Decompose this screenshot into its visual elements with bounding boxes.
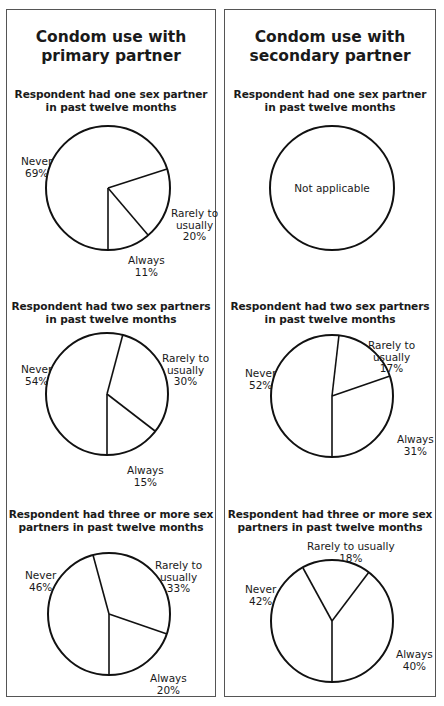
- column-title: Condom use with primary partner: [7, 28, 215, 66]
- label-line: Rarely to: [155, 560, 202, 572]
- label-rarely: Rarely to usually 17%: [368, 340, 415, 375]
- secondary-partner-panel: Condom use with secondary partner Respon…: [224, 9, 436, 697]
- subtitle-line: in past twelve months: [225, 313, 435, 326]
- label-always: Always 20%: [150, 673, 187, 696]
- label-line: Never: [245, 584, 276, 596]
- label-always: Always 11%: [128, 255, 165, 278]
- title-line: primary partner: [7, 47, 215, 66]
- label-rarely: Rarely to usually 33%: [155, 560, 202, 595]
- label-line: Always: [150, 673, 187, 685]
- label-line: 69%: [21, 168, 52, 180]
- label-rarely: Rarely to usually 30%: [162, 353, 209, 388]
- label-line: Always: [396, 649, 433, 661]
- subtitle-line: partners in past twelve months: [225, 521, 435, 534]
- subtitle-line: Respondent had one sex partner: [7, 88, 215, 101]
- subtitle-line: partners in past twelve months: [7, 521, 215, 534]
- label-never: Never 42%: [245, 584, 276, 607]
- label-never: Never 69%: [21, 156, 52, 179]
- subtitle-line: Respondent had three or more sex: [225, 508, 435, 521]
- label-never: Never 54%: [21, 364, 52, 387]
- label-line: Always: [127, 465, 164, 477]
- label-line: 40%: [396, 661, 433, 673]
- label-line: 54%: [21, 376, 52, 388]
- label-line: 42%: [245, 596, 276, 608]
- label-line: Rarely to: [171, 208, 218, 220]
- column-title: Condom use with secondary partner: [225, 28, 435, 66]
- label-line: 20%: [150, 685, 187, 697]
- label-line: Never: [21, 156, 52, 168]
- title-line: Condom use with: [225, 28, 435, 47]
- subtitle-line: Respondent had two sex partners: [225, 300, 435, 313]
- label-line: Always: [397, 434, 434, 446]
- subtitle-line: in past twelve months: [7, 313, 215, 326]
- label-line: Never: [25, 570, 56, 582]
- label-always: Always 40%: [396, 649, 433, 672]
- label-line: Always: [128, 255, 165, 267]
- label-line: 52%: [245, 380, 276, 392]
- label-line: Never: [245, 368, 276, 380]
- label-line: 20%: [171, 231, 218, 243]
- subtitle-line: Respondent had two sex partners: [7, 300, 215, 313]
- label-always: Always 31%: [397, 434, 434, 457]
- label-line: Never: [21, 364, 52, 376]
- not-applicable-label: Not applicable: [272, 182, 392, 194]
- label-line: Rarely to usually: [307, 541, 395, 553]
- subtitle-line: Respondent had one sex partner: [225, 88, 435, 101]
- label-never: Never 52%: [245, 368, 276, 391]
- label-line: 31%: [397, 446, 434, 458]
- chart-subtitle: Respondent had two sex partners in past …: [7, 300, 215, 326]
- primary-partner-panel: Condom use with primary partner Responde…: [6, 9, 216, 697]
- label-line: 46%: [25, 582, 56, 594]
- label-always: Always 15%: [127, 465, 164, 488]
- subtitle-line: Respondent had three or more sex: [7, 508, 215, 521]
- label-line: 33%: [155, 583, 202, 595]
- subtitle-line: in past twelve months: [225, 101, 435, 114]
- label-line: 30%: [162, 376, 209, 388]
- label-line: 15%: [127, 477, 164, 489]
- label-line: Rarely to: [368, 340, 415, 352]
- label-line: 11%: [128, 267, 165, 279]
- label-rarely: Rarely to usually 20%: [171, 208, 218, 243]
- subtitle-line: in past twelve months: [7, 101, 215, 114]
- title-line: secondary partner: [225, 47, 435, 66]
- chart-subtitle: Respondent had two sex partners in past …: [225, 300, 435, 326]
- title-line: Condom use with: [7, 28, 215, 47]
- pie-chart-secondary-three-plus-partners: [225, 555, 437, 695]
- chart-subtitle: Respondent had one sex partner in past t…: [7, 88, 215, 114]
- label-never: Never 46%: [25, 570, 56, 593]
- label-line: Rarely to: [162, 353, 209, 365]
- label-line: 17%: [368, 363, 415, 375]
- chart-subtitle: Respondent had three or more sex partner…: [225, 508, 435, 534]
- chart-subtitle: Respondent had three or more sex partner…: [7, 508, 215, 534]
- chart-subtitle: Respondent had one sex partner in past t…: [225, 88, 435, 114]
